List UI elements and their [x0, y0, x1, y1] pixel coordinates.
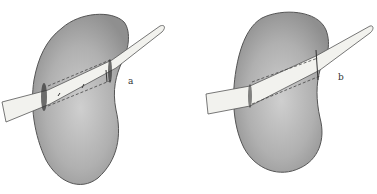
- label-b: b: [338, 72, 344, 82]
- figure-canvas: a b: [0, 0, 377, 194]
- tube-entry-b: [248, 84, 252, 108]
- tube-entry-a: [41, 83, 47, 111]
- label-a: a: [128, 76, 134, 86]
- tube-exit-a: [108, 59, 112, 83]
- panel-a: a: [2, 14, 164, 184]
- panel-b: b: [206, 12, 373, 172]
